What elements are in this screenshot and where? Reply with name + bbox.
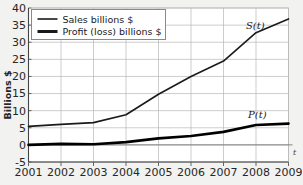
- y-tick-label: 35: [12, 19, 26, 32]
- x-tick-label: 2007: [210, 166, 238, 179]
- y-tick-label: 15: [12, 87, 26, 100]
- y-axis-title-text: Billions $: [2, 70, 13, 119]
- x-tick-label: 2003: [80, 166, 108, 179]
- y-tick-label: 30: [12, 36, 26, 49]
- y-axis-title: Billions $: [2, 70, 13, 119]
- y-tick-label: 20: [12, 70, 26, 83]
- x-axis-tick-labels: 200120022003200420052006200720082009: [15, 166, 303, 179]
- x-tick-label: 2001: [15, 166, 43, 179]
- annotation-p-of-t: P(t): [247, 109, 267, 120]
- legend-label: Profit (loss) billions $: [63, 26, 162, 37]
- y-tick-label: 0: [19, 139, 26, 152]
- y-tick-label: 10: [12, 105, 26, 118]
- y-tick-label: 40: [12, 2, 26, 15]
- y-tick-label: 25: [12, 53, 26, 66]
- y-tick-label: 5: [19, 122, 26, 135]
- chart-legend[interactable]: Sales billions $Profit (loss) billions $: [32, 10, 166, 40]
- annotation-s-of-t: S(t): [246, 20, 265, 31]
- legend-label: Sales billions $: [63, 14, 134, 25]
- x-tick-label: 2006: [177, 166, 205, 179]
- line-chart: 4035302520151050-5 200120022003200420052…: [0, 0, 302, 185]
- x-tick-label: 2008: [242, 166, 270, 179]
- x-tick-label: 2009: [275, 166, 303, 179]
- x-tick-label: 2004: [112, 166, 140, 179]
- x-tick-label: 2005: [145, 166, 173, 179]
- chart-container: 4035302520151050-5 200120022003200420052…: [0, 0, 302, 185]
- x-tick-label: 2002: [47, 166, 75, 179]
